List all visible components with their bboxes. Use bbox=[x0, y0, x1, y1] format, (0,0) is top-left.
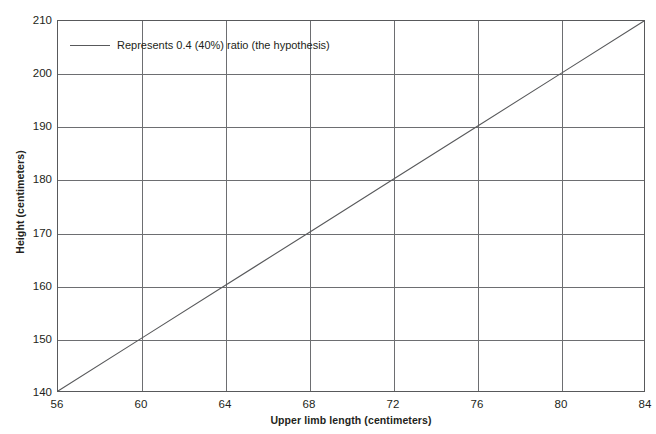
x-axis-tick-label: 76 bbox=[455, 398, 499, 410]
plot-area: Represents 0.4 (40%) ratio (the hypothes… bbox=[57, 20, 645, 392]
legend-label: Represents 0.4 (40%) ratio (the hypothes… bbox=[117, 39, 330, 51]
series-line-hypothesis bbox=[58, 21, 644, 391]
y-axis-tick-label: 150 bbox=[12, 334, 52, 345]
y-axis-tick-label: 200 bbox=[12, 68, 52, 79]
data-series-layer bbox=[58, 21, 644, 391]
y-axis-tick-label: 190 bbox=[12, 121, 52, 132]
x-axis-tick-label: 56 bbox=[35, 398, 79, 410]
x-axis-tick-label: 60 bbox=[119, 398, 163, 410]
legend: Represents 0.4 (40%) ratio (the hypothes… bbox=[70, 39, 330, 51]
line-chart: Height (centimeters) 1401501601701801902… bbox=[0, 0, 656, 434]
x-axis-tick-label: 64 bbox=[203, 398, 247, 410]
x-axis-tick-label: 80 bbox=[539, 398, 583, 410]
legend-line-swatch bbox=[70, 45, 110, 46]
y-axis-tick-label: 170 bbox=[12, 228, 52, 239]
x-axis-tick-labels: 5660646872768084 bbox=[57, 394, 645, 410]
y-axis-tick-labels: 140150160170180190200210 bbox=[8, 20, 52, 392]
x-axis-tick-label: 84 bbox=[623, 398, 656, 410]
y-axis-tick-label: 180 bbox=[12, 174, 52, 185]
y-axis-tick-label: 140 bbox=[12, 387, 52, 398]
x-axis-tick-label: 68 bbox=[287, 398, 331, 410]
y-axis-tick-label: 160 bbox=[12, 281, 52, 292]
y-axis-tick-label: 210 bbox=[12, 15, 52, 26]
x-axis-title: Upper limb length (centimeters) bbox=[57, 414, 645, 426]
x-axis-tick-label: 72 bbox=[371, 398, 415, 410]
